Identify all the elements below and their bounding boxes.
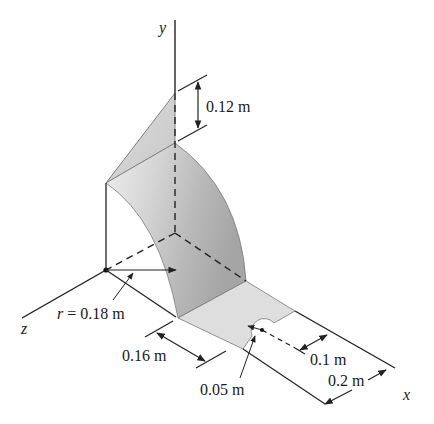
dim-radius-label: r = 0.18 m [57,306,125,322]
dim-hole-radius-label: 0.05 m [200,382,244,398]
dim-hole-offset-label: 0.1 m [310,352,346,368]
x-axis-label: x [403,387,410,403]
dim-02-arrow-b [368,370,386,380]
dim-012-ext-top [178,75,207,91]
hole-center-dot [260,328,264,332]
y-axis-label: y [159,20,166,36]
hole-center-line [262,330,295,348]
dim-01-arrow [300,335,327,350]
dim-016-ext-right [196,351,226,368]
z-axis-label: z [21,321,27,337]
dim-height-label: 0.12 m [206,99,250,115]
diagram-svg [0,0,434,424]
dim-01-ext [295,348,305,354]
dim-02-arrow-a [325,390,352,404]
dim-plate-length-label: 0.2 m [328,373,364,389]
dim-plate-width-label: 0.16 m [122,348,166,364]
dim-012-ext-bot [178,125,207,141]
diagram-figure: y z x 0.12 m r = 0.18 m 0.16 m 0.05 m 0.… [0,0,434,424]
